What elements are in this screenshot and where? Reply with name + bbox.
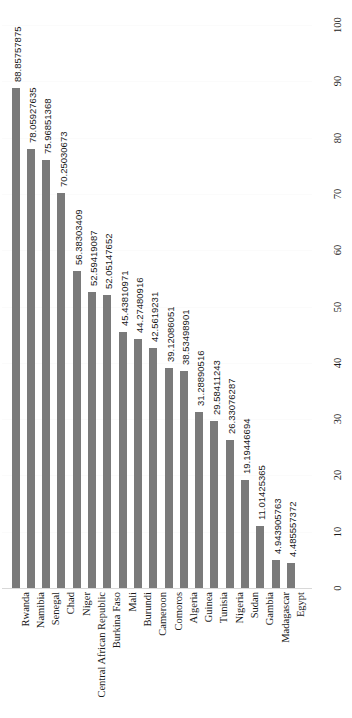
gridline <box>2 25 312 26</box>
category-label-text: Nigeria <box>234 592 245 624</box>
bar-value-label-text: 75.96851368 <box>42 99 53 154</box>
category-label-text: Niger <box>81 592 92 616</box>
bar-value-label-text: 52.05147652 <box>103 233 114 288</box>
bar[interactable] <box>134 339 142 588</box>
bar[interactable] <box>103 295 111 588</box>
bar[interactable] <box>165 368 173 588</box>
bar-value-label-text: 44.27480916 <box>134 277 145 332</box>
bar[interactable] <box>226 440 234 588</box>
bar[interactable] <box>241 480 249 588</box>
bar[interactable] <box>256 526 264 588</box>
gridline <box>2 588 312 589</box>
bar-value-label-text: 29.58411243 <box>211 361 222 416</box>
bar-value-label-text: 52.59419087 <box>88 230 99 285</box>
value-axis-tick-label: 60 <box>332 245 343 256</box>
category-label-text: Namibia <box>35 592 46 628</box>
bar[interactable] <box>12 88 20 588</box>
value-axis-tick-label: 80 <box>332 132 343 143</box>
bar-chart: 88.8575787578.0592763575.9685136870.2503… <box>0 0 352 718</box>
bar-value-label-text: 11.01425365 <box>256 465 267 520</box>
value-axis-tick-label: 100 <box>332 17 343 33</box>
bar-value-label-text: 70.25030673 <box>58 131 69 186</box>
category-label-text: Senegal <box>50 592 61 625</box>
value-axis-tick-label: 90 <box>332 76 343 87</box>
value-axis-tick-label: 20 <box>332 470 343 481</box>
value-axis-tick-label: 50 <box>332 301 343 312</box>
value-axis-tick-label: 30 <box>332 414 343 425</box>
bar[interactable] <box>88 292 96 588</box>
bar-value-label-text: 45.43810971 <box>119 271 130 326</box>
bar[interactable] <box>119 332 127 588</box>
bar-value-label-text: 42.5619231 <box>149 292 160 342</box>
category-label-text: Algeria <box>188 592 199 624</box>
category-label-text: Sudan <box>249 592 260 618</box>
category-label-text: Cameroon <box>157 592 168 636</box>
bar[interactable] <box>180 371 188 588</box>
category-label-text: Egypt <box>295 592 306 617</box>
category-label-text: Burundi <box>142 592 153 626</box>
category-label-text: Guinea <box>203 592 214 622</box>
bar[interactable] <box>42 160 50 588</box>
category-label-text: Mali <box>127 592 138 612</box>
bar-value-label-text: 88.85757875 <box>12 26 23 81</box>
bar-value-label-text: 26.33076287 <box>226 378 237 433</box>
bar[interactable] <box>73 271 81 588</box>
bar-value-label-text: 4.943905763 <box>272 499 283 554</box>
bar[interactable] <box>57 193 65 589</box>
category-label-text: Gambia <box>264 592 275 625</box>
bar-value-label-text: 19.19446694 <box>241 418 252 473</box>
category-label-text: Madagascar <box>280 592 291 643</box>
bar-value-label-text: 38.53498901 <box>180 310 191 365</box>
category-label-text: Burkina Faso <box>111 592 122 648</box>
bar[interactable] <box>27 149 35 588</box>
value-axis-tick-label: 0 <box>332 585 343 590</box>
category-label-text: Central African Republic <box>96 592 107 698</box>
value-axis-tick-label: 40 <box>332 358 343 369</box>
plot-area: 88.8575787578.0592763575.9685136870.2503… <box>0 0 318 718</box>
category-label-text: Tunisia <box>218 592 229 623</box>
category-label-text: Chad <box>65 592 76 614</box>
category-label-text: Comoros <box>173 592 184 631</box>
bar-value-label-text: 39.12086051 <box>165 306 176 361</box>
bar[interactable] <box>272 560 280 588</box>
bar-value-label-text: 31.28890516 <box>195 350 206 405</box>
bar-value-label-text: 78.05927635 <box>27 87 38 142</box>
bar-value-label-text: 56.38303409 <box>73 209 84 264</box>
bar[interactable] <box>195 412 203 588</box>
category-label-text: Rwanda <box>20 592 31 626</box>
gridline <box>2 81 312 82</box>
value-axis-tick-label: 10 <box>332 526 343 537</box>
value-axis: 0102030405060708090100 <box>318 0 352 718</box>
value-axis-tick-label: 70 <box>332 189 343 200</box>
bar[interactable] <box>287 563 295 588</box>
bar[interactable] <box>210 421 218 588</box>
bar-value-label-text: 4.485557372 <box>287 501 298 556</box>
bar[interactable] <box>149 348 157 588</box>
